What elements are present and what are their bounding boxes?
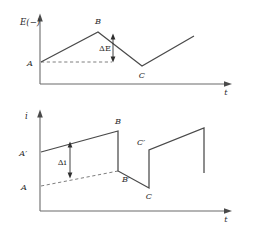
upper-y-axis-label: E(−) [19, 17, 40, 27]
upper-plot: E(−) t A B C ΔE [19, 14, 232, 98]
lower-plot: i t A′ A B B′ C C′ Δi [18, 110, 232, 225]
lower-point-label-C: C [146, 191, 153, 201]
two-panel-plot-svg: E(−) t A B C ΔE i t [0, 0, 260, 232]
lower-x-axis-label: t [224, 214, 228, 224]
upper-x-axis-arrowhead [224, 81, 232, 87]
lower-y-axis-arrowhead [37, 110, 43, 118]
upper-point-label-B: B [94, 16, 101, 26]
lower-point-label-A-prime: A′ [18, 148, 27, 158]
upper-x-axis-label: t [224, 87, 228, 97]
lower-point-label-C-prime: C′ [137, 137, 145, 147]
lower-point-label-B-prime: B′ [121, 174, 130, 184]
lower-baseline-dashed [41, 171, 118, 186]
upper-delta-E-label: ΔE [99, 43, 111, 53]
lower-x-axis-arrowhead [224, 208, 232, 214]
lower-y-axis-label: i [25, 111, 28, 121]
upper-point-label-A: A [26, 58, 33, 68]
figure-root: E(−) t A B C ΔE i t [0, 0, 260, 232]
upper-point-label-C: C [139, 70, 146, 80]
upper-curve [41, 32, 194, 66]
lower-delta-i-label: Δi [58, 157, 67, 167]
lower-point-label-B: B [114, 116, 121, 126]
upper-delta-arrowhead-top [111, 34, 116, 40]
lower-point-label-A: A [20, 182, 27, 192]
lower-delta-arrowhead-bottom [68, 172, 73, 178]
